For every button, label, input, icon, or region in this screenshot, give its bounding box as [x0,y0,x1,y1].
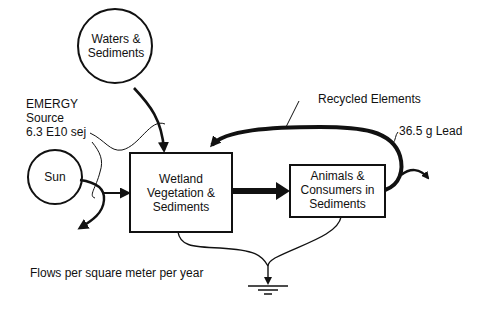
animals-line3: Sediments [290,197,385,211]
lead-label: 36.5 g Lead [399,124,462,138]
emergy-value: 6.3 E10 sej [26,125,86,139]
recycled-leader-line [286,101,299,127]
animals-line1: Animals & [290,169,385,183]
ground-sink-icon [248,286,288,294]
wetland-line3: Sediments [131,200,231,214]
emergy-line1: EMERGY [26,97,86,111]
waters-label-line2: Sediments [80,46,152,60]
sun-flow-curve [80,180,104,228]
waters-label: Waters & Sediments [80,32,152,60]
wetland-line2: Vegetation & [131,186,231,200]
recycled-elements-text: Recycled Elements [318,92,421,106]
wetland-line1: Wetland [131,172,231,186]
lead-text: 36.5 g Lead [399,124,462,138]
recycled-elements-label: Recycled Elements [318,92,421,106]
animals-line2: Consumers in [290,183,385,197]
waters-label-line1: Waters & [80,32,152,46]
animals-sink-flow [268,217,341,266]
flows-note: Flows per square meter per year [30,266,203,280]
emergy-line2: Source [26,111,86,125]
flows-note-text: Flows per square meter per year [30,266,203,280]
lead-outflow-arrow [401,170,428,178]
sun-label: Sun [35,170,75,184]
sun-label-text: Sun [44,170,65,184]
wetland-label: Wetland Vegetation & Sediments [131,172,231,214]
lead-leader-line [393,132,398,143]
wetland-sink-flow [178,232,268,266]
animals-label: Animals & Consumers in Sediments [290,169,385,211]
waters-flow-arrow [134,88,164,150]
emergy-source-label: EMERGY Source 6.3 E10 sej [26,97,86,139]
